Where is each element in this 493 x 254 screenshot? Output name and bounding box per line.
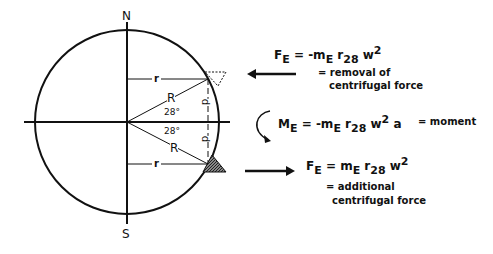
radius-r-top-label: r xyxy=(152,73,161,85)
equation-removal: FE = -mE r28 w2 xyxy=(274,44,381,66)
angle-bottom-label: 28° xyxy=(164,125,180,137)
additional-desc-line1: = additional xyxy=(326,181,395,193)
radius-r-bottom-label: r xyxy=(152,158,161,170)
arrow-right-icon xyxy=(286,166,295,176)
removal-desc-line1: = removal of xyxy=(318,67,390,79)
moment-desc: = moment xyxy=(418,116,476,128)
radius-R-bottom-label: R xyxy=(170,142,178,154)
additional-desc-line2: centrifugal force xyxy=(332,195,426,207)
south-label: S xyxy=(122,228,130,240)
equation-additional: FE = mE r28 w2 xyxy=(306,155,409,177)
angle-top-label: 28° xyxy=(164,106,180,118)
north-label: N xyxy=(122,10,131,22)
removal-desc-line2: centrifugal force xyxy=(329,80,423,92)
distance-d-top-label: d xyxy=(199,99,211,105)
moment-curved-arrow-icon xyxy=(257,111,270,140)
arrow-left-icon xyxy=(247,69,256,79)
distance-d-bottom-label: d xyxy=(199,136,211,142)
radius-R-top-label: R xyxy=(167,92,175,104)
equation-moment: ME = -mE r28 w2 a xyxy=(278,113,402,135)
